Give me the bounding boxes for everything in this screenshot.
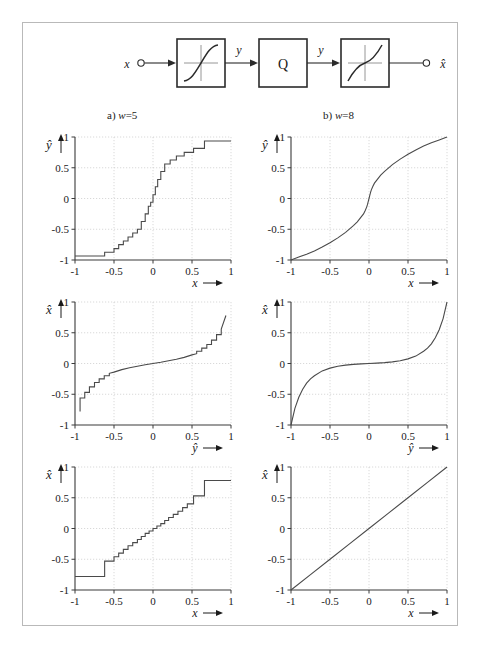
x-axis-label: x bbox=[191, 606, 198, 620]
chart-tickmarks bbox=[72, 467, 232, 594]
block-signal-label-y1: y bbox=[235, 43, 242, 57]
column-caption-a-param: w bbox=[118, 109, 125, 121]
y-tick-label: 0 bbox=[280, 358, 286, 370]
chart-svg: -1-0.500.51-1-0.500.51x̂ŷ bbox=[29, 292, 239, 455]
chart-tickmarks bbox=[72, 137, 232, 264]
block-diagram: Q x y y x̂ bbox=[23, 23, 457, 101]
x-tick-label: -0.5 bbox=[105, 430, 123, 442]
x-tick-label: -1 bbox=[70, 595, 79, 607]
y-tick-label: 1 bbox=[64, 296, 70, 308]
y-tick-label: -0.5 bbox=[52, 388, 70, 400]
x-axis-label: ŷ bbox=[191, 441, 198, 455]
y-axis-label: x̂ bbox=[261, 467, 268, 482]
y-axis-label: x̂ bbox=[45, 467, 52, 482]
x-axis-arrow-icon bbox=[419, 280, 439, 286]
y-tick-label: 0.5 bbox=[271, 162, 285, 174]
x-axis-arrow-icon bbox=[203, 445, 223, 451]
y-axis-label: ŷ bbox=[260, 137, 268, 152]
y-tick-label: 0.5 bbox=[55, 492, 69, 504]
y-tick-label: -1 bbox=[276, 419, 285, 431]
y-tick-label: -1 bbox=[60, 584, 69, 596]
column-caption-a: a) w=5 bbox=[107, 109, 137, 121]
y-tick-label: 1 bbox=[280, 131, 286, 143]
x-tick-label: 1 bbox=[228, 265, 234, 277]
chart-tickmarks bbox=[288, 137, 448, 264]
column-caption-a-prefix: a) bbox=[107, 109, 116, 121]
x-tick-label: 0 bbox=[150, 430, 156, 442]
y-axis-label: x̂ bbox=[261, 302, 268, 317]
y-tick-label: 0 bbox=[280, 193, 286, 205]
column-caption-b: b) w=8 bbox=[323, 109, 354, 121]
x-tick-label: 1 bbox=[444, 595, 450, 607]
x-axis-label: x bbox=[191, 276, 198, 290]
y-tick-label: -1 bbox=[60, 419, 69, 431]
x-tick-label: 1 bbox=[228, 595, 234, 607]
column-caption-b-prefix: b) bbox=[323, 109, 332, 121]
plot-a-compressor: -1-0.500.51-1-0.500.51ŷx bbox=[29, 127, 239, 290]
y-tick-label: -0.5 bbox=[52, 553, 70, 565]
y-axis-label: x̂ bbox=[45, 302, 52, 317]
x-tick-label: 1 bbox=[444, 265, 450, 277]
y-tick-label: -1 bbox=[276, 584, 285, 596]
x-axis-label: x bbox=[407, 606, 414, 620]
x-axis-label: x bbox=[407, 276, 414, 290]
x-axis-label: ŷ bbox=[407, 441, 414, 455]
y-tick-label: -1 bbox=[60, 254, 69, 266]
y-tick-label: -1 bbox=[276, 254, 285, 266]
x-tick-label: -1 bbox=[286, 265, 295, 277]
plot-a-overall: -1-0.500.51-1-0.500.51x̂x bbox=[29, 457, 239, 620]
x-tick-label: -0.5 bbox=[105, 265, 123, 277]
x-tick-label: 0 bbox=[150, 595, 156, 607]
y-tick-label: 0.5 bbox=[271, 492, 285, 504]
plot-a-expander: -1-0.500.51-1-0.500.51x̂ŷ bbox=[29, 292, 239, 455]
y-tick-label: 0.5 bbox=[55, 327, 69, 339]
block-signal-label-y2: y bbox=[317, 43, 324, 57]
chart-svg: -1-0.500.51-1-0.500.51x̂ŷ bbox=[245, 292, 455, 455]
y-axis-label: ŷ bbox=[44, 137, 52, 152]
plot-b-overall: -1-0.500.51-1-0.500.51x̂x bbox=[245, 457, 455, 620]
x-tick-label: -1 bbox=[70, 430, 79, 442]
x-axis-arrow-icon bbox=[419, 445, 439, 451]
x-tick-label: 0 bbox=[366, 265, 372, 277]
x-tick-label: 1 bbox=[228, 430, 234, 442]
x-tick-label: -0.5 bbox=[321, 595, 339, 607]
chart-svg: -1-0.500.51-1-0.500.51ŷx bbox=[245, 127, 455, 290]
y-tick-label: 0 bbox=[64, 358, 70, 370]
y-tick-label: 0 bbox=[64, 193, 70, 205]
x-tick-label: -0.5 bbox=[321, 430, 339, 442]
y-tick-label: 0.5 bbox=[55, 162, 69, 174]
block-input-label-x: x bbox=[123, 57, 130, 71]
y-tick-label: 1 bbox=[64, 461, 70, 473]
x-tick-label: 0 bbox=[150, 265, 156, 277]
y-tick-label: -0.5 bbox=[268, 553, 286, 565]
x-tick-label: -1 bbox=[286, 430, 295, 442]
x-tick-label: -0.5 bbox=[105, 595, 123, 607]
chart-svg: -1-0.500.51-1-0.500.51x̂x bbox=[29, 457, 239, 620]
x-axis-arrow-icon bbox=[203, 610, 223, 616]
chart-tickmarks bbox=[72, 302, 232, 429]
x-tick-label: 0 bbox=[366, 430, 372, 442]
y-tick-label: 0.5 bbox=[271, 327, 285, 339]
plot-b-compressor: -1-0.500.51-1-0.500.51ŷx bbox=[245, 127, 455, 290]
y-tick-label: -0.5 bbox=[268, 388, 286, 400]
quantizer-block-label: Q bbox=[278, 57, 288, 72]
block-output-label-xhat: x̂ bbox=[439, 57, 446, 71]
column-caption-a-value: 5 bbox=[132, 109, 138, 121]
y-tick-label: -0.5 bbox=[268, 223, 286, 235]
x-tick-label: -1 bbox=[70, 265, 79, 277]
x-tick-label: 0 bbox=[366, 595, 372, 607]
chart-svg: -1-0.500.51-1-0.500.51x̂x bbox=[245, 457, 455, 620]
x-tick-label: 1 bbox=[444, 430, 450, 442]
column-caption-b-value: 8 bbox=[348, 109, 354, 121]
x-axis-arrow-icon bbox=[203, 280, 223, 286]
y-tick-label: -0.5 bbox=[52, 223, 70, 235]
y-tick-label: 0 bbox=[64, 523, 70, 535]
plot-b-expander: -1-0.500.51-1-0.500.51x̂ŷ bbox=[245, 292, 455, 455]
x-tick-label: -0.5 bbox=[321, 265, 339, 277]
x-tick-label: -1 bbox=[286, 595, 295, 607]
y-tick-label: 0 bbox=[280, 523, 286, 535]
y-tick-label: 1 bbox=[280, 461, 286, 473]
y-tick-label: 1 bbox=[280, 296, 286, 308]
chart-svg: -1-0.500.51-1-0.500.51ŷx bbox=[29, 127, 239, 290]
y-tick-label: 1 bbox=[64, 131, 70, 143]
